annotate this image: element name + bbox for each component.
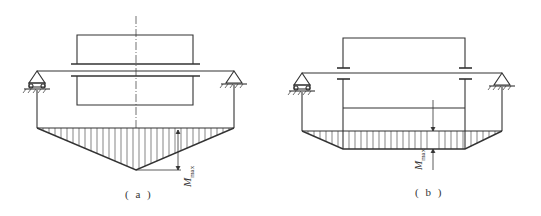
mmax-dimension-arrow [136,130,181,170]
mmax-dimension-arrow [431,100,435,170]
figure-b [288,38,515,170]
moment-symbol: M [412,161,424,170]
caption-b: ( b ) [415,186,443,198]
mmax-label-b: Mmax [412,149,427,170]
drum-body [77,35,193,64]
caption-a: ( a ) [125,188,153,200]
figure-a [23,16,247,170]
moment-symbol: M [181,178,193,187]
hub-frame [343,38,465,68]
bending-moment-diagram [302,131,502,149]
drum-body-lower [77,76,193,105]
diagram-canvas [0,0,541,216]
moment-subscript: max [188,166,196,178]
bending-moment-diagram [37,128,234,170]
mmax-label-a: Mmax [181,166,196,187]
roller-support-icon [288,73,315,95]
roller-support-icon [23,71,50,93]
moment-subscript: max [419,149,427,161]
